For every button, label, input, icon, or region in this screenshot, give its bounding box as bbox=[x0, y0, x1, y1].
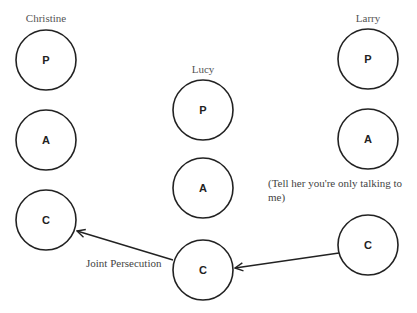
larry-note-line2: me) bbox=[268, 191, 285, 204]
state-letter: A bbox=[42, 134, 50, 146]
state-letter: C bbox=[364, 239, 372, 251]
state-letter: C bbox=[42, 214, 50, 226]
transaction-diagram: Christine P A C Lucy P A C Larry P A C (… bbox=[0, 0, 417, 313]
arrow-lucy-to-christine bbox=[77, 231, 173, 260]
christine-adult-state: A bbox=[16, 110, 76, 170]
lucy-child-state: C bbox=[173, 240, 233, 300]
state-letter: A bbox=[199, 182, 207, 194]
christine-parent-state: P bbox=[16, 30, 76, 90]
lucy-adult-state: A bbox=[173, 158, 233, 218]
person-name-larry: Larry bbox=[356, 12, 381, 24]
person-name-lucy: Lucy bbox=[192, 63, 215, 75]
state-letter: C bbox=[199, 264, 207, 276]
state-letter: P bbox=[364, 53, 371, 65]
larry-adult-state: A bbox=[338, 109, 398, 169]
larry-parent-state: P bbox=[338, 29, 398, 89]
joint-persecution-label: Joint Persecution bbox=[86, 257, 162, 269]
state-letter: P bbox=[199, 104, 206, 116]
state-letter: A bbox=[364, 133, 372, 145]
arrow-larry-to-lucy bbox=[235, 253, 339, 268]
christine-child-state: C bbox=[16, 190, 76, 250]
larry-note-line1: (Tell her you're only talking to bbox=[268, 177, 403, 190]
person-name-christine: Christine bbox=[26, 12, 66, 24]
larry-child-state: C bbox=[338, 215, 398, 275]
state-letter: P bbox=[42, 54, 49, 66]
lucy-parent-state: P bbox=[173, 80, 233, 140]
